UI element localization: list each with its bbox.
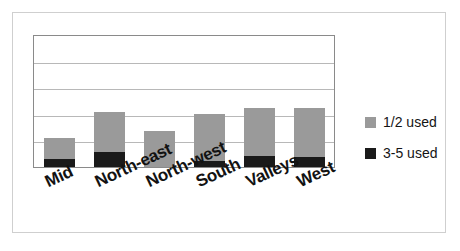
bar-segment-half-used bbox=[294, 108, 325, 157]
plot-area bbox=[33, 35, 335, 168]
bar-segment-half-used bbox=[244, 108, 275, 156]
legend-item[interactable]: 3-5 used bbox=[365, 144, 457, 162]
stacked-bar[interactable] bbox=[244, 108, 275, 167]
legend-swatch-half-used bbox=[365, 117, 376, 128]
bar-slot bbox=[234, 36, 284, 167]
chart-screenshot: MidNorth-eastNorth-westSouthValleysWest … bbox=[0, 0, 460, 251]
stacked-bar[interactable] bbox=[294, 108, 325, 167]
legend-label: 1/2 used bbox=[383, 114, 437, 130]
bar-slot bbox=[34, 36, 84, 167]
stacked-bar[interactable] bbox=[94, 112, 125, 167]
bar-segment-half-used bbox=[94, 112, 125, 152]
bar-slot bbox=[84, 36, 134, 167]
x-axis-labels: MidNorth-eastNorth-westSouthValleysWest bbox=[33, 168, 335, 238]
stacked-bar[interactable] bbox=[44, 138, 75, 167]
bar-slot bbox=[284, 36, 334, 167]
legend-label: 3-5 used bbox=[383, 145, 437, 161]
legend-item[interactable]: 1/2 used bbox=[365, 113, 457, 131]
legend-swatch-three-five-used bbox=[365, 148, 376, 159]
chart-legend: 1/2 used3-5 used bbox=[365, 113, 457, 175]
bar-segment-half-used bbox=[44, 138, 75, 159]
chart-card: MidNorth-eastNorth-westSouthValleysWest … bbox=[12, 12, 446, 233]
bar-group bbox=[34, 36, 334, 167]
